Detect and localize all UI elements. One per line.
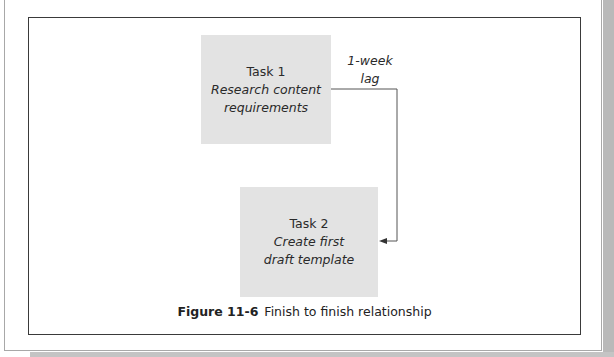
lag-label: 1-week lag	[335, 52, 405, 88]
lag-label-line1: 1-week	[335, 52, 405, 70]
task-box-1: Task 1 Research content requirements	[201, 35, 331, 144]
task-2-description-line2: draft template	[264, 251, 354, 269]
task-1-description-line1: Research content	[211, 81, 321, 99]
page-shadow-bottom	[30, 352, 614, 357]
figure-caption-label: Figure 11-6	[177, 304, 258, 319]
lag-label-line2: lag	[335, 70, 405, 88]
task-2-description-line1: Create first	[274, 233, 344, 251]
task-1-title: Task 1	[247, 63, 286, 81]
task-box-2: Task 2 Create first draft template	[240, 187, 378, 297]
task-1-description-line2: requirements	[224, 99, 308, 117]
figure-caption: Figure 11-6Finish to finish relationship	[28, 304, 581, 319]
task-2-title: Task 2	[290, 215, 329, 233]
page-shadow-right	[603, 0, 614, 357]
figure-caption-text: Finish to finish relationship	[264, 304, 431, 319]
